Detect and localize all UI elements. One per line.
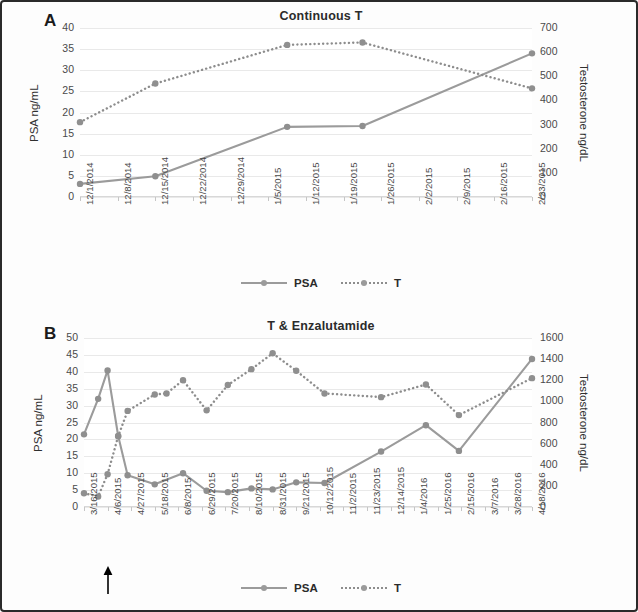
x-axis-tick xyxy=(118,197,119,201)
data-point-psa xyxy=(152,173,158,179)
y-axis-tick-label: 10 xyxy=(50,466,78,478)
x-axis-tick-label: 10/12/2015 xyxy=(324,467,335,515)
x-axis-tick-label: 12/22/2014 xyxy=(197,157,208,205)
x-axis-tick-label: 6/29/2015 xyxy=(206,472,217,515)
x-axis-tick-label: 1/25/2016 xyxy=(442,472,453,515)
x-axis-tick-label: 12/8/2014 xyxy=(122,162,133,205)
legend-item-t: T xyxy=(341,276,401,289)
data-point-psa xyxy=(104,367,110,373)
x-axis-tick xyxy=(296,507,297,511)
y-axis-tick-label: 30 xyxy=(50,399,78,411)
x-axis-tick-label: 4/27/2015 xyxy=(135,472,146,515)
x-axis-tick-label: 8/31/2015 xyxy=(277,472,288,515)
y-axis-tick-label: 0 xyxy=(50,500,78,512)
data-point-psa xyxy=(456,448,462,454)
data-point-t xyxy=(248,366,254,372)
x-axis-tick xyxy=(225,507,226,511)
y-axis-tick-label: 25 xyxy=(46,84,74,96)
x-axis-tick-label: 2/2/2015 xyxy=(423,168,434,205)
data-point-psa xyxy=(529,50,535,56)
data-point-t xyxy=(423,381,429,387)
x-axis-tick-label: 12/14/2015 xyxy=(395,467,406,515)
x-axis-tick xyxy=(532,197,533,201)
x-axis-tick xyxy=(457,197,458,201)
data-point-psa xyxy=(95,396,101,402)
y2-axis-tick-label: 500 xyxy=(540,69,558,81)
x-axis-tick-label: 4/6/2015 xyxy=(112,478,123,515)
panel-b: B T & Enzalutamide PSA ng/mL Testosteron… xyxy=(2,308,638,612)
data-point-psa xyxy=(81,431,87,437)
x-axis-tick-label: 12/1/2014 xyxy=(84,162,95,205)
legend-swatch-psa xyxy=(241,583,287,593)
data-point-t xyxy=(124,408,130,414)
y-axis-tick-label: 20 xyxy=(50,432,78,444)
figure-container: A Continuous T PSA ng/mL Testosterone ng… xyxy=(0,0,638,612)
y2-axis-tick-label: 300 xyxy=(540,118,558,130)
legend-item-psa: PSA xyxy=(241,581,318,594)
x-axis-tick xyxy=(231,197,232,201)
panel-b-legend: PSA T xyxy=(2,581,638,594)
panel-a-y2-axis-title: Testosterone ng/dL xyxy=(578,64,590,162)
x-axis-tick-label: 3/16/2015 xyxy=(88,472,99,515)
data-point-t xyxy=(359,39,365,45)
data-point-t xyxy=(529,85,535,91)
data-point-t xyxy=(225,382,231,388)
y-axis-tick-label: 50 xyxy=(50,331,78,343)
y2-axis-tick-label: 1400 xyxy=(540,352,563,364)
y2-axis-tick-label: 1000 xyxy=(540,394,563,406)
panel-a-legend: PSA T xyxy=(2,276,638,289)
data-point-t xyxy=(115,433,121,439)
x-axis-tick-label: 1/26/2015 xyxy=(385,162,396,205)
panel-a: A Continuous T PSA ng/mL Testosterone ng… xyxy=(2,2,638,308)
y-axis-tick-label: 5 xyxy=(46,169,74,181)
legend-label-psa: PSA xyxy=(294,277,318,289)
data-point-psa xyxy=(423,422,429,428)
legend-swatch-t xyxy=(341,278,387,288)
data-point-t xyxy=(378,394,384,400)
x-axis-tick xyxy=(419,197,420,201)
data-point-t xyxy=(77,119,83,125)
x-axis-tick xyxy=(343,507,344,511)
data-point-t xyxy=(456,412,462,418)
x-axis-tick-label: 7/20/2015 xyxy=(229,472,240,515)
x-axis-tick xyxy=(178,507,179,511)
x-axis-tick-label: 6/8/2015 xyxy=(182,478,193,515)
x-axis-tick xyxy=(344,197,345,201)
y-axis-tick-label: 35 xyxy=(46,42,74,54)
data-point-t xyxy=(321,390,327,396)
x-axis-tick-label: 11/23/2015 xyxy=(371,468,382,515)
x-axis-tick xyxy=(367,507,368,511)
y-axis-tick-label: 15 xyxy=(50,449,78,461)
y-axis-tick-label: 10 xyxy=(46,148,74,160)
data-point-t xyxy=(284,42,290,48)
y-axis-tick-label: 20 xyxy=(46,106,74,118)
x-axis-tick xyxy=(306,197,307,201)
x-axis-tick xyxy=(155,507,156,511)
y-axis-tick-label: 25 xyxy=(50,416,78,428)
y-axis-tick-label: 45 xyxy=(50,348,78,360)
x-axis-tick-label: 1/19/2015 xyxy=(348,162,359,205)
x-axis-tick xyxy=(80,197,81,201)
x-axis-tick xyxy=(268,197,269,201)
x-axis-tick xyxy=(84,507,85,511)
x-axis-tick-label: 1/12/2015 xyxy=(310,162,321,205)
data-point-psa xyxy=(529,356,535,362)
y2-axis-tick-label: 600 xyxy=(540,45,558,57)
legend-item-psa: PSA xyxy=(241,276,318,289)
y-axis-tick-label: 5 xyxy=(50,483,78,495)
data-point-t xyxy=(180,377,186,383)
data-point-t xyxy=(163,390,169,396)
x-axis-tick-label: 1/4/2016 xyxy=(418,478,429,515)
legend-label-psa: PSA xyxy=(294,582,318,594)
x-axis-tick xyxy=(391,507,392,511)
x-axis-tick-label: 8/10/2015 xyxy=(253,472,264,515)
data-point-t xyxy=(152,80,158,86)
x-axis-tick xyxy=(438,507,439,511)
x-axis-tick xyxy=(108,507,109,511)
data-point-psa xyxy=(359,123,365,129)
x-axis-tick-label: 4/18/2016 xyxy=(536,472,547,515)
x-axis-tick-label: 3/7/2016 xyxy=(489,478,500,515)
y2-axis-tick-label: 400 xyxy=(540,458,558,470)
y-axis-tick-label: 40 xyxy=(46,21,74,33)
data-point-psa xyxy=(180,470,186,476)
